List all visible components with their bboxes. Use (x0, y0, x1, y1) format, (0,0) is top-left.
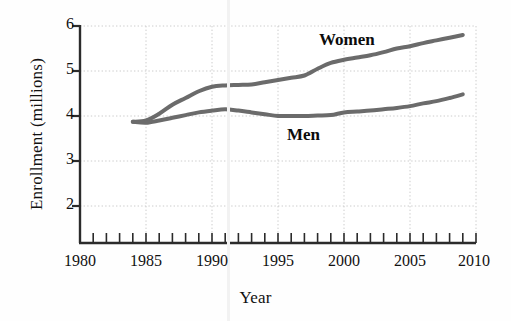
y-tick-label-5: 5 (52, 60, 74, 78)
x-tick-label-1990: 1990 (180, 252, 244, 270)
enrollment-line-chart: Enrollment (millions) Year 6 5 4 3 2 198… (0, 0, 511, 321)
x-axis-title: Year (0, 288, 511, 308)
x-tick-label-1985: 1985 (114, 252, 178, 270)
series-label-men: Men (287, 125, 320, 145)
x-tick-label-2000: 2000 (312, 252, 376, 270)
x-tick-label-2005: 2005 (378, 252, 442, 270)
x-tick-label-1995: 1995 (246, 252, 310, 270)
y-tick-label-3: 3 (52, 150, 74, 168)
y-tick-label-6: 6 (52, 15, 74, 33)
chart-canvas (0, 0, 511, 321)
series-label-women: Women (319, 30, 375, 50)
y-tick-label-2: 2 (52, 195, 74, 213)
y-tick-label-4: 4 (52, 105, 74, 123)
x-tick-label-2010: 2010 (442, 252, 506, 270)
y-axis-title: Enrollment (millions) (27, 34, 47, 234)
x-tick-label-1980: 1980 (48, 252, 112, 270)
